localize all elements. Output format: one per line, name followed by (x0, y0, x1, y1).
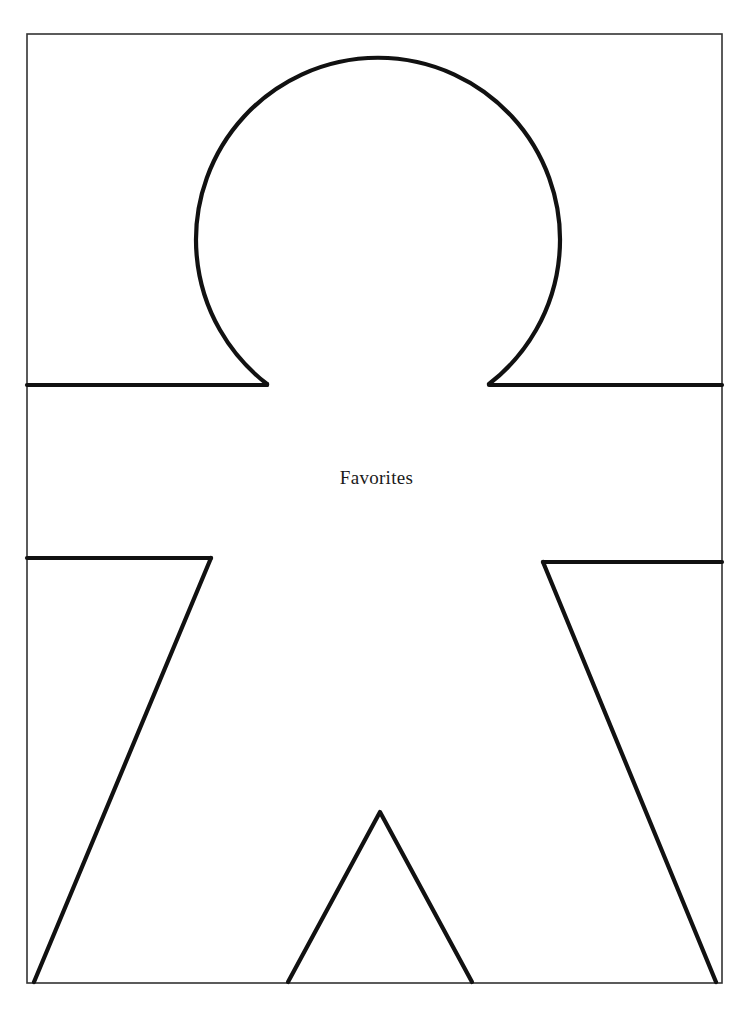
paper-doll-drawing (0, 0, 753, 1009)
page-background (0, 0, 753, 1009)
document-page: Favorites (0, 0, 753, 1009)
